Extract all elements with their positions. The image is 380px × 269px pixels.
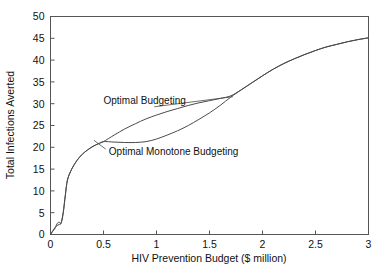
chart-background	[0, 0, 380, 269]
line-chart: 00.511.522.53 05101520253035404550 Optim…	[0, 0, 380, 269]
x-tick-label: 0	[48, 238, 54, 250]
y-tick-label: 30	[33, 98, 45, 110]
x-tick-label: 3	[366, 238, 372, 250]
x-tick-label: 2.5	[308, 238, 323, 250]
y-tick-label: 10	[33, 185, 45, 197]
y-tick-label: 0	[39, 228, 45, 240]
y-tick-label: 50	[33, 10, 45, 22]
y-tick-label: 15	[33, 163, 45, 175]
y-tick-label: 40	[33, 54, 45, 66]
annotation-optimal-monotone-budgeting: Optimal Monotone Budgeting	[109, 146, 239, 157]
annotation-optimal-budgeting: Optimal Budgeting	[104, 95, 186, 106]
y-tick-label: 35	[33, 76, 45, 88]
y-tick-label: 45	[33, 32, 45, 44]
x-tick-label: 2	[260, 238, 266, 250]
y-tick-label: 20	[33, 141, 45, 153]
x-tick-label: 0.5	[96, 238, 111, 250]
y-tick-label: 25	[33, 119, 45, 131]
x-axis-label: HIV Prevention Budget ($ million)	[131, 252, 286, 264]
x-tick-label: 1.5	[202, 238, 217, 250]
y-axis-label: Total Infections Averted	[4, 71, 16, 180]
x-tick-label: 1	[154, 238, 160, 250]
y-tick-label: 5	[39, 207, 45, 219]
chart-figure: 00.511.522.53 05101520253035404550 Optim…	[0, 0, 380, 269]
